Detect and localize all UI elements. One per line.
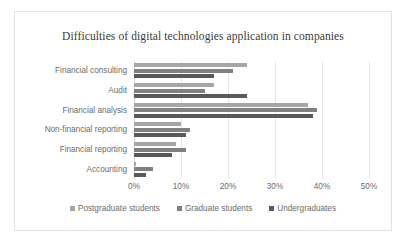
x-tick-label: 20% [220, 182, 236, 191]
category-label: Financial reporting [15, 140, 131, 160]
bar [134, 133, 186, 137]
chart-legend: Postgraduate studentsGraduate studentsUn… [15, 204, 391, 213]
bar [134, 74, 214, 78]
bar [134, 162, 136, 166]
bar-groups [134, 61, 369, 179]
bar [134, 167, 153, 171]
bar [134, 69, 233, 73]
legend-item[interactable]: Graduate students [177, 204, 252, 213]
bar [134, 142, 176, 146]
category-label: Non-financial reporting [15, 120, 131, 140]
bar [134, 89, 205, 93]
legend-item[interactable]: Undergraduates [269, 204, 336, 213]
bar-group [134, 120, 369, 140]
x-tick-label: 40% [314, 182, 330, 191]
bar [134, 108, 317, 112]
x-tick-label: 50% [361, 182, 377, 191]
x-tick-label: 10% [173, 182, 189, 191]
bar [134, 122, 181, 126]
category-label: Accounting [15, 159, 131, 179]
legend-swatch-icon [70, 206, 75, 211]
legend-label: Graduate students [185, 204, 252, 213]
legend-swatch-icon [269, 206, 274, 211]
x-axis-tick-labels: 0%10%20%30%40%50% [134, 182, 369, 194]
category-label: Audit [15, 81, 131, 101]
bar [134, 173, 146, 177]
legend-label: Undergraduates [277, 204, 336, 213]
bar [134, 153, 172, 157]
x-tick-label: 0% [128, 182, 140, 191]
gridline [369, 61, 370, 179]
bar-group [134, 159, 369, 179]
bar [134, 128, 190, 132]
legend-swatch-icon [177, 206, 182, 211]
bar [134, 94, 247, 98]
bar [134, 83, 214, 87]
bar [134, 148, 186, 152]
y-axis-category-labels: Financial consultingAuditFinancial analy… [15, 61, 131, 179]
bar-group [134, 100, 369, 120]
category-label: Financial analysis [15, 100, 131, 120]
category-label: Financial consulting [15, 61, 131, 81]
x-tick-label: 30% [267, 182, 283, 191]
bar [134, 114, 313, 118]
bar [134, 103, 308, 107]
bar-group [134, 140, 369, 160]
bar-group [134, 81, 369, 101]
plot-area [134, 61, 369, 179]
bar [134, 63, 247, 67]
legend-label: Postgraduate students [78, 204, 160, 213]
chart-container: Difficulties of digital technologies app… [14, 11, 392, 231]
bar-group [134, 61, 369, 81]
chart-title: Difficulties of digital technologies app… [15, 30, 391, 42]
legend-item[interactable]: Postgraduate students [70, 204, 160, 213]
